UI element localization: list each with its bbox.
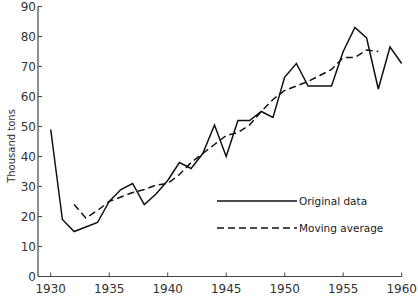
y-axis-title: Thousand tons	[6, 109, 17, 184]
x-tick-label: 1935	[94, 282, 125, 296]
x-tick-label: 1955	[328, 282, 359, 296]
x-tick-label: 1960	[386, 282, 417, 296]
legend-moving-label: Moving average	[299, 222, 383, 234]
line-chart: 0102030405060708090 19301935194019451950…	[0, 0, 418, 303]
y-tick-label: 90	[21, 0, 36, 14]
y-tick-label: 80	[21, 30, 36, 44]
x-tick-label: 1930	[35, 282, 66, 296]
legend-original-label: Original data	[299, 195, 367, 207]
x-tick-label: 1940	[152, 282, 183, 296]
y-tick-label: 20	[21, 210, 36, 224]
y-tick-label: 40	[21, 150, 36, 164]
x-tick-label: 1945	[211, 282, 242, 296]
y-tick-label: 10	[21, 240, 36, 254]
y-tick-label: 50	[21, 120, 36, 134]
moving-average-line	[74, 50, 378, 218]
y-axis-ticks: 0102030405060708090	[21, 0, 42, 284]
legend: Original data Moving average	[217, 195, 383, 234]
x-tick-label: 1950	[269, 282, 300, 296]
y-tick-label: 60	[21, 90, 36, 104]
y-tick-label: 70	[21, 60, 36, 74]
y-tick-label: 30	[21, 180, 36, 194]
